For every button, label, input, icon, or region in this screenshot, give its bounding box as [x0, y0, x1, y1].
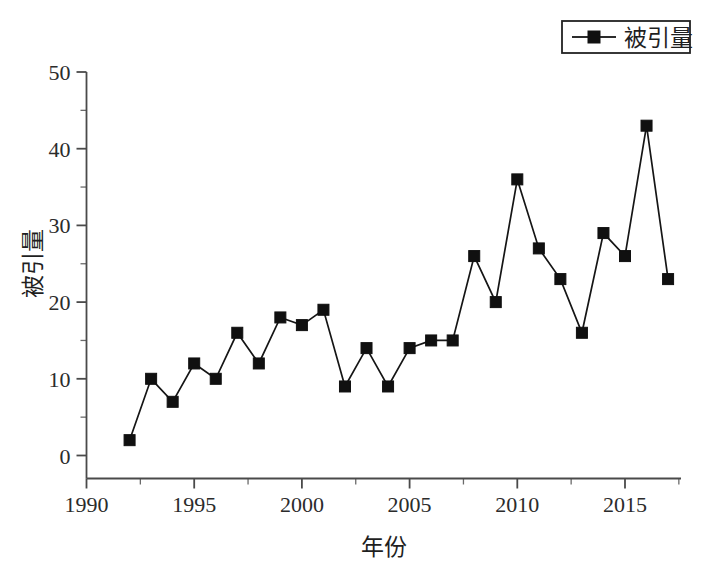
data-point: 2014: 29 — [598, 228, 609, 239]
data-point: 2002: 9 — [339, 381, 350, 392]
y-axis-title: 被引量 — [20, 229, 46, 298]
data-point: 2016: 43 — [641, 120, 652, 131]
data-point: 2013: 16 — [576, 327, 587, 338]
data-point: 1994: 7 — [167, 396, 178, 407]
y-tick-label: 10 — [49, 367, 71, 392]
x-tick-label: 1990 — [65, 492, 109, 517]
line-chart-canvas: 01020304050 199019952000200520102015 199… — [0, 0, 707, 583]
data-point: 2003: 14 — [361, 343, 372, 354]
legend: 被引量 — [562, 21, 693, 53]
chart-figure: 01020304050 199019952000200520102015 199… — [0, 0, 707, 583]
data-point: 2017: 23 — [663, 274, 674, 285]
data-point: 1999: 18 — [275, 312, 286, 323]
data-point: 1992: 2 — [124, 435, 135, 446]
x-tick-label: 2015 — [603, 492, 647, 517]
x-axis-title: 年份 — [361, 534, 407, 560]
data-point: 2005: 14 — [404, 343, 415, 354]
data-point: 2011: 27 — [533, 243, 544, 254]
y-tick-label: 30 — [49, 213, 71, 238]
y-tick-label: 50 — [49, 60, 71, 85]
data-point: 1995: 12 — [189, 358, 200, 369]
legend-label-被引量: 被引量 — [624, 25, 693, 51]
data-point: 2009: 20 — [490, 297, 501, 308]
x-tick-label: 2005 — [388, 492, 432, 517]
data-point: 1998: 12 — [253, 358, 264, 369]
data-point: 2007: 15 — [447, 335, 458, 346]
data-point: 2008: 26 — [469, 251, 480, 262]
y-tick-label: 20 — [49, 290, 71, 315]
data-point: 2012: 23 — [555, 274, 566, 285]
data-point: 2015: 26 — [620, 251, 631, 262]
x-tick-label: 2000 — [280, 492, 324, 517]
data-point: 2000: 17 — [296, 320, 307, 331]
data-point: 1996: 10 — [210, 373, 221, 384]
data-point: 2006: 15 — [426, 335, 437, 346]
data-point: 1997: 16 — [232, 327, 243, 338]
y-tick-label: 0 — [60, 444, 71, 469]
data-point: 2001: 19 — [318, 304, 329, 315]
legend-marker-square — [588, 31, 600, 43]
data-point: 2010: 36 — [512, 174, 523, 185]
x-tick-label: 1995 — [172, 492, 216, 517]
x-tick-label: 2010 — [495, 492, 539, 517]
data-point: 2004: 9 — [383, 381, 394, 392]
data-point: 1993: 10 — [146, 373, 157, 384]
y-tick-label: 40 — [49, 137, 71, 162]
